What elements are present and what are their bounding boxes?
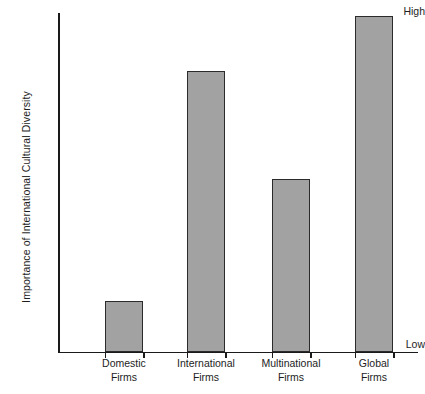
x-axis-label-multinational-firms: Multinational Firms bbox=[249, 357, 333, 384]
x-axis-label-line1: Domestic bbox=[82, 357, 166, 371]
bar-chart: Importance of International Cultural Div… bbox=[0, 0, 425, 394]
x-axis-label-line1: Global bbox=[332, 357, 416, 371]
x-axis-labels: Domestic Firms International Firms Multi… bbox=[58, 357, 418, 393]
x-axis-label-line1: Multinational bbox=[249, 357, 333, 371]
x-axis-label-line2: Firms bbox=[332, 371, 416, 385]
plot-area bbox=[58, 13, 418, 352]
x-axis-label-line2: Firms bbox=[164, 371, 248, 385]
y-axis-title: Importance of International Cultural Div… bbox=[13, 0, 39, 394]
bar-multinational-firms bbox=[272, 179, 311, 352]
x-axis-label-line2: Firms bbox=[82, 371, 166, 385]
bar-global-firms bbox=[355, 16, 394, 352]
x-axis-label-line1: International bbox=[164, 357, 248, 371]
x-axis-label-global-firms: Global Firms bbox=[332, 357, 416, 384]
x-axis-label-international-firms: International Firms bbox=[164, 357, 248, 384]
x-axis-label-domestic-firms: Domestic Firms bbox=[82, 357, 166, 384]
x-axis-label-line2: Firms bbox=[249, 371, 333, 385]
bar-domestic-firms bbox=[105, 301, 144, 352]
bar-international-firms bbox=[187, 71, 226, 352]
